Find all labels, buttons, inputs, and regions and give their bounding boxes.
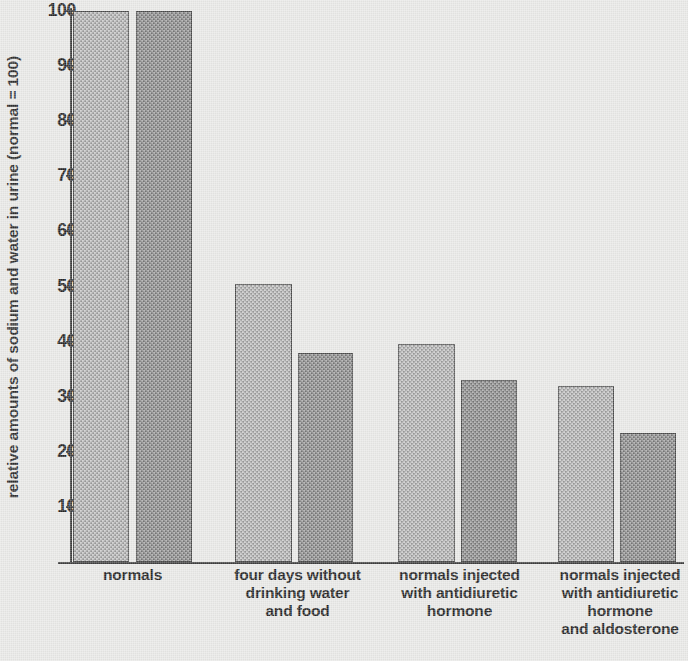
x-group-label-line: drinking water [215,584,380,602]
x-group-label-normals: normals [60,566,205,584]
x-group-label-line: four days without [215,566,380,584]
x-group-label-normals-injected-adh-aldosterone: normals injectedwith antidiuretichormone… [540,566,688,639]
x-group-label-line: normals [60,566,205,584]
x-group-label-line: with antidiuretic [382,584,537,602]
x-group-label-line: with antidiuretic [540,584,688,602]
x-group-label-four-days-without-water-and-food: four days withoutdrinking waterand food [215,566,380,620]
x-group-label-line: and aldosterone [540,620,688,638]
x-group-label-normals-injected-adh: normals injectedwith antidiuretichormone [382,566,537,620]
x-axis-labels: normalsfour days withoutdrinking wateran… [0,0,688,661]
x-group-label-line: normals injected [540,566,688,584]
x-group-label-line: hormone [382,602,537,620]
x-group-label-line: and food [215,602,380,620]
x-group-label-line: hormone [540,602,688,620]
bar-chart: relative amounts of sodium and water in … [0,0,688,661]
x-group-label-line: normals injected [382,566,537,584]
